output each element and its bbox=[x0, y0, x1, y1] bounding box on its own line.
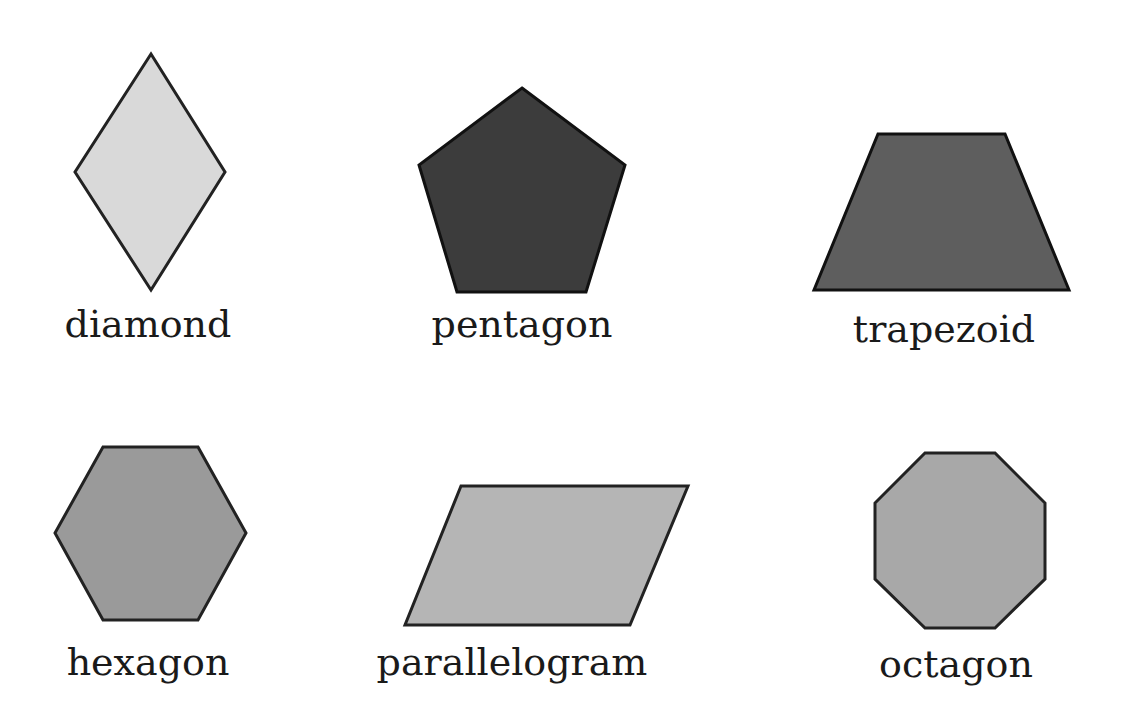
pentagon-label: pentagon bbox=[432, 305, 613, 343]
hexagon-label: hexagon bbox=[67, 643, 230, 681]
diamond-label: diamond bbox=[65, 305, 232, 343]
diamond-shape bbox=[75, 54, 225, 290]
trapezoid-label: trapezoid bbox=[853, 310, 1035, 348]
parallelogram-shape bbox=[405, 486, 688, 625]
shapes-canvas bbox=[0, 0, 1126, 721]
parallelogram-label: parallelogram bbox=[377, 643, 648, 681]
hexagon-shape bbox=[55, 447, 246, 620]
pentagon-shape bbox=[419, 88, 625, 292]
octagon-label: octagon bbox=[879, 645, 1033, 683]
trapezoid-shape bbox=[814, 134, 1069, 290]
octagon-shape bbox=[875, 453, 1045, 628]
